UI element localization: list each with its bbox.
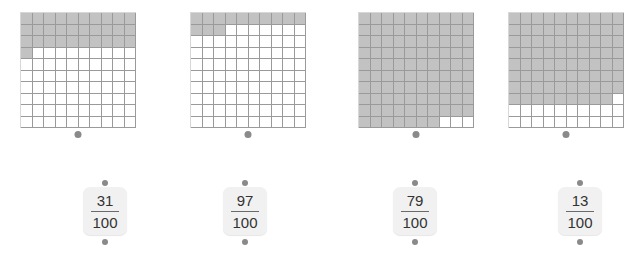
grid-cell-shaded[interactable] [428, 117, 440, 129]
grid-cell-empty[interactable] [67, 82, 79, 94]
grid-cell-empty[interactable] [191, 94, 203, 106]
grid-cell-shaded[interactable] [613, 36, 624, 48]
grid-cell-shaded[interactable] [555, 13, 567, 25]
grid-cell-shaded[interactable] [359, 82, 371, 94]
grid-cell-empty[interactable] [440, 117, 452, 129]
grid-cell-shaded[interactable] [567, 71, 579, 83]
grid-cell-empty[interactable] [56, 117, 68, 129]
grid-cell-empty[interactable] [260, 59, 272, 71]
grid-cell-shaded[interactable] [509, 59, 521, 71]
grid-cell-empty[interactable] [44, 94, 56, 106]
grid-cell-shaded[interactable] [125, 25, 137, 37]
grid-cell-empty[interactable] [260, 117, 272, 129]
grid-cell-empty[interactable] [214, 71, 226, 83]
hundred-grid-unit-3[interactable] [358, 12, 474, 128]
card-2[interactable]: 97100 [223, 187, 267, 235]
grid-cell-empty[interactable] [113, 48, 125, 60]
grid-cell-empty[interactable] [283, 71, 295, 83]
grid-cell-shaded[interactable] [359, 71, 371, 83]
grid-cell-shaded[interactable] [371, 59, 383, 71]
grid-cell-shaded[interactable] [567, 48, 579, 60]
grid-cell-shaded[interactable] [371, 82, 383, 94]
grid-connector-dot[interactable] [563, 131, 570, 138]
grid-cell-empty[interactable] [44, 59, 56, 71]
grid-cell-shaded[interactable] [578, 36, 590, 48]
card-connector-dot-top[interactable] [577, 180, 583, 186]
grid-cell-shaded[interactable] [590, 13, 602, 25]
grid-cell-empty[interactable] [33, 59, 45, 71]
grid-cell-empty[interactable] [283, 25, 295, 37]
grid-cell-shaded[interactable] [417, 13, 429, 25]
grid-cell-shaded[interactable] [532, 48, 544, 60]
grid-cell-empty[interactable] [295, 82, 307, 94]
grid-cell-shaded[interactable] [544, 94, 556, 106]
grid-cell-empty[interactable] [226, 117, 238, 129]
grid-cell-shaded[interactable] [113, 25, 125, 37]
grid-cell-empty[interactable] [33, 48, 45, 60]
grid-cell-shaded[interactable] [521, 59, 533, 71]
grid-cell-shaded[interactable] [463, 71, 475, 83]
grid-cell-empty[interactable] [125, 71, 137, 83]
grid-cell-empty[interactable] [33, 94, 45, 106]
grid-cell-shaded[interactable] [463, 94, 475, 106]
grid-cell-empty[interactable] [272, 82, 284, 94]
card-4[interactable]: 13100 [558, 187, 602, 235]
grid-cell-shaded[interactable] [405, 13, 417, 25]
grid-cell-empty[interactable] [237, 59, 249, 71]
grid-cell-shaded[interactable] [394, 71, 406, 83]
grid-cell-empty[interactable] [214, 82, 226, 94]
grid-cell-empty[interactable] [21, 59, 33, 71]
grid-cell-shaded[interactable] [90, 25, 102, 37]
grid-cell-shaded[interactable] [567, 94, 579, 106]
grid-cell-shaded[interactable] [33, 13, 45, 25]
grid-cell-empty[interactable] [113, 105, 125, 117]
grid-cell-shaded[interactable] [405, 36, 417, 48]
grid-cell-shaded[interactable] [440, 82, 452, 94]
grid-cell-empty[interactable] [226, 94, 238, 106]
grid-cell-empty[interactable] [191, 105, 203, 117]
grid-cell-shaded[interactable] [555, 94, 567, 106]
grid-cell-shaded[interactable] [359, 25, 371, 37]
grid-cell-shaded[interactable] [428, 94, 440, 106]
grid-cell-empty[interactable] [125, 59, 137, 71]
grid-cell-shaded[interactable] [544, 36, 556, 48]
grid-cell-shaded[interactable] [440, 59, 452, 71]
grid-cell-shaded[interactable] [382, 48, 394, 60]
grid-cell-empty[interactable] [260, 48, 272, 60]
grid-cell-empty[interactable] [249, 82, 261, 94]
grid-cell-shaded[interactable] [590, 94, 602, 106]
grid-cell-shaded[interactable] [463, 48, 475, 60]
grid-cell-shaded[interactable] [509, 13, 521, 25]
grid-cell-empty[interactable] [463, 117, 475, 129]
grid-cell-empty[interactable] [283, 94, 295, 106]
grid-cell-shaded[interactable] [463, 36, 475, 48]
card-connector-dot-top[interactable] [242, 180, 248, 186]
grid-cell-shaded[interactable] [102, 13, 114, 25]
grid-cell-shaded[interactable] [382, 117, 394, 129]
grid-cell-shaded[interactable] [417, 117, 429, 129]
hundred-grid-unit-2[interactable] [190, 12, 306, 128]
grid-cell-shaded[interactable] [44, 13, 56, 25]
grid-cell-shaded[interactable] [56, 13, 68, 25]
grid-cell-empty[interactable] [90, 117, 102, 129]
grid-cell-empty[interactable] [79, 105, 91, 117]
grid-cell-empty[interactable] [237, 105, 249, 117]
grid-cell-empty[interactable] [67, 117, 79, 129]
grid-cell-empty[interactable] [79, 82, 91, 94]
grid-cell-shaded[interactable] [440, 105, 452, 117]
grid-1[interactable] [20, 12, 136, 128]
grid-cell-empty[interactable] [283, 82, 295, 94]
grid-cell-shaded[interactable] [601, 71, 613, 83]
grid-cell-empty[interactable] [295, 71, 307, 83]
grid-cell-shaded[interactable] [371, 13, 383, 25]
grid-cell-empty[interactable] [102, 117, 114, 129]
grid-cell-empty[interactable] [237, 25, 249, 37]
grid-cell-empty[interactable] [79, 117, 91, 129]
grid-cell-empty[interactable] [226, 105, 238, 117]
grid-cell-empty[interactable] [272, 48, 284, 60]
grid-cell-shaded[interactable] [532, 71, 544, 83]
grid-cell-empty[interactable] [555, 117, 567, 129]
grid-cell-shaded[interactable] [555, 59, 567, 71]
grid-cell-shaded[interactable] [544, 59, 556, 71]
grid-cell-shaded[interactable] [405, 105, 417, 117]
